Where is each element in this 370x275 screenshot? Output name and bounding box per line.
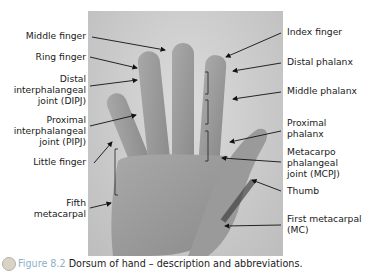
label-mcpj: Metacarpophalangealjoint (MCPJ) [287,146,340,179]
figure-number: Figure 8.2 [18,258,66,269]
chapter-badge-icon [2,257,16,271]
label-middle-phalanx: Middle phalanx [287,85,357,96]
label-dipj: Distalinterphalangealjoint (DIPJ) [0,73,86,106]
label-middle-finger: Middle finger [6,30,86,41]
figure-caption: Figure 8.2 Dorsum of hand – description … [18,258,303,269]
label-ring-finger: Ring finger [6,51,86,62]
label-little-finger: Little finger [6,156,86,167]
label-fifth-metacarpal: Fifthmetacarpal [6,197,86,219]
label-proximal-phalanx: Proximalphalanx [287,117,326,139]
label-pipj: Proximalinterphalangealjoint (PIPJ) [0,114,86,147]
label-index-finger: Index finger [287,26,342,37]
caption-text: Dorsum of hand – description and abbrevi… [69,258,303,269]
label-thumb: Thumb [287,185,319,196]
label-distal-phalanx: Distal phalanx [287,56,353,67]
label-first-metacarpal: First metacarpal(MC) [287,213,362,235]
